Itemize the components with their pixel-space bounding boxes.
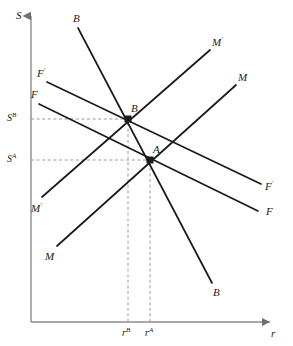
y-tick-label-sb: SB: [7, 112, 16, 123]
prime-icon: ′: [272, 179, 274, 187]
prime-icon: ′: [221, 35, 223, 43]
curve-label-m-prime-left-base: M: [31, 202, 40, 214]
y-tick-sb-sup: B: [12, 111, 16, 119]
curve-label-m-prime-left: M′: [31, 202, 42, 214]
curve-label-f-prime-right-base: F: [265, 180, 272, 192]
curve-f-prime: [47, 82, 261, 184]
x-tick-label-ra: rA: [145, 327, 153, 338]
curve-label-m-left: M: [45, 251, 54, 262]
y-axis-label: S: [16, 10, 22, 21]
curve-label-m-prime-right-base: M: [212, 36, 221, 48]
plot-canvas: [0, 0, 293, 346]
prime-icon: ′: [44, 66, 46, 74]
curve-label-b-bottom: B: [213, 287, 220, 298]
curve-label-f-prime-right: F′: [265, 180, 273, 192]
point-a-label: A: [153, 144, 160, 155]
y-tick-label-sa: SA: [7, 153, 16, 164]
y-tick-sa-sup: A: [12, 152, 16, 160]
curve-m: [57, 85, 236, 246]
curve-label-b-top: B: [73, 13, 80, 24]
prime-icon: ′: [40, 201, 42, 209]
point-a-marker: [147, 157, 154, 164]
curve-label-f-prime-left: F′: [37, 67, 45, 79]
economics-diagram: S r SB SA rB rA B A B B M′ M′ M M F′ F′ …: [0, 0, 293, 346]
point-b-label: B: [131, 103, 138, 114]
curve-label-f-left: F: [31, 89, 38, 100]
point-b-marker: [125, 116, 132, 123]
curve-label-m-right: M: [238, 72, 247, 83]
x-tick-ra-sup: A: [149, 326, 153, 334]
x-tick-rb-sup: B: [126, 326, 130, 334]
x-axis-label: r: [271, 328, 275, 339]
curve-label-f-prime-left-base: F: [37, 67, 44, 79]
curve-label-f-right: F: [266, 206, 273, 217]
x-tick-label-rb: rB: [122, 327, 130, 338]
curve-label-m-prime-right: M′: [212, 36, 223, 48]
